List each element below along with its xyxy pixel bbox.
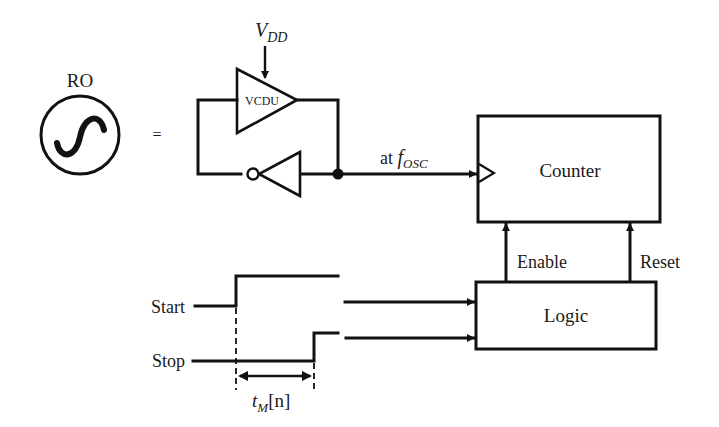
stop-waveform — [193, 333, 338, 361]
start-label: Start — [151, 297, 185, 317]
interval-arrow-right — [302, 371, 312, 381]
start-waveform — [195, 276, 338, 306]
stop-label: Stop — [152, 351, 185, 371]
interval-arrow-left — [238, 371, 248, 381]
inverter — [259, 152, 300, 196]
fosc-label: at fOSC — [380, 146, 428, 171]
reset-label: Reset — [640, 252, 680, 272]
logic-block: Logic — [476, 282, 656, 349]
feedback-wire-left — [198, 100, 241, 174]
counter-block: Counter — [478, 116, 660, 222]
vcdu-label: VCDU — [245, 94, 279, 108]
equals-sign: = — [152, 126, 161, 143]
enable-label: Enable — [517, 252, 567, 272]
logic-label: Logic — [544, 305, 588, 326]
vdd-label: VDD — [255, 19, 287, 45]
inverter-bubble — [248, 169, 259, 180]
ro-symbol: RO = — [41, 70, 162, 174]
tdc-diagram: RO = VDD VCDU at fOSC Counter Enable Res… — [0, 0, 719, 427]
sine-wave-icon — [57, 119, 104, 155]
interval-label: tM[n] — [252, 390, 290, 415]
ring-oscillator: VDD VCDU — [198, 19, 344, 196]
timing-waveforms: Start Stop tM[n] — [151, 276, 338, 415]
counter-label: Counter — [539, 160, 601, 181]
feedback-wire-right — [297, 100, 338, 174]
ro-label: RO — [67, 70, 93, 91]
